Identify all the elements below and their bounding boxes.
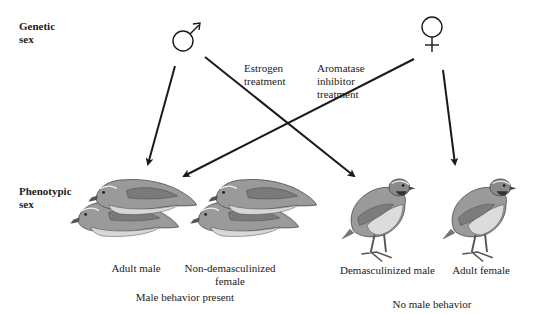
female-symbol-icon (422, 17, 442, 52)
phenotype-label-line: Demasculinized male (330, 264, 445, 277)
arrow-female-to-adult-female (443, 70, 455, 164)
arrow-male-to-adult-male (148, 66, 175, 164)
male-symbol-icon (173, 23, 200, 51)
phenotype-label-adult-female: Adult female (446, 264, 516, 277)
group-label-male-behavior-present: Male behavior present (110, 291, 260, 304)
phenotype-label-demasculinized-male: Demasculinized male (330, 264, 445, 277)
phenotype-label-line: female (175, 275, 285, 288)
quail-pair-nondemasculinized-female (190, 179, 316, 236)
arrow-male-to-demasculinized (205, 57, 354, 176)
phenotype-label-nondemasculinized-female: Non-demasculinized female (175, 262, 285, 288)
phenotype-label-line: Non-demasculinized (175, 262, 285, 275)
quail-pair-adult-male (70, 179, 196, 236)
phenotype-label-adult-male: Adult male (96, 262, 176, 275)
phenotype-label-line: Adult male (96, 262, 176, 275)
quail-demasculinized-male (342, 179, 415, 262)
arrow-female-to-nondemasculinized (184, 59, 414, 176)
group-label-no-male-behavior: No male behavior (372, 298, 492, 311)
phenotype-label-line: Adult female (446, 264, 516, 277)
quail-adult-female (443, 179, 516, 262)
